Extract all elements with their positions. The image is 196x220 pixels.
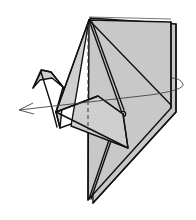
crane-diagram-svg <box>0 0 196 220</box>
crane-head <box>33 70 64 128</box>
